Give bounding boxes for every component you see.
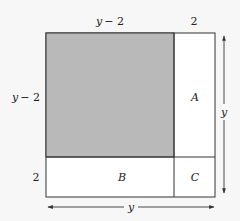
horizontal-dimension-label: y	[127, 201, 135, 214]
vertical-dimension-label: y	[220, 106, 228, 119]
square-decomposition-diagram: y− 2 2 y− 2 2 A B C y y	[0, 0, 240, 221]
region-b-label: B	[117, 171, 126, 184]
top-label-y-minus-2: y− 2	[95, 15, 124, 28]
top-label-2: 2	[191, 15, 198, 28]
left-label-y-minus-2: y− 2	[11, 91, 40, 104]
shaded-square	[46, 33, 174, 157]
region-c-label: C	[191, 171, 200, 184]
left-label-2: 2	[33, 171, 40, 184]
region-a-label: A	[190, 91, 199, 104]
